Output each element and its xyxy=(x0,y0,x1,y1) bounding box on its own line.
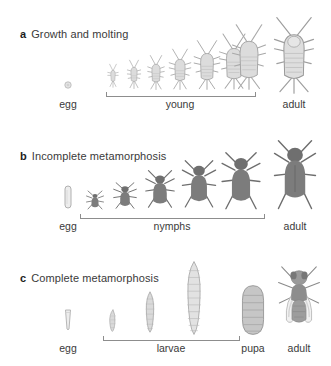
bracket-young xyxy=(106,92,256,97)
figure-adult-c xyxy=(277,262,321,336)
figure-adult-a xyxy=(271,16,317,94)
figure-larva-3 xyxy=(184,260,204,336)
label-egg-b: egg xyxy=(59,220,77,232)
figure-egg-b xyxy=(63,184,73,210)
panel-c-letter: c xyxy=(20,272,26,284)
panel-a-title: Growth and molting xyxy=(31,28,128,40)
bracket-nymphs xyxy=(80,214,265,219)
figure-young-2 xyxy=(125,58,144,89)
panel-incomplete-metamorphosis: bIncomplete metamorphosis xyxy=(0,122,331,244)
panel-a-header: aGrowth and molting xyxy=(20,28,128,40)
bracket-larvae xyxy=(103,336,240,341)
label-pupa: pupa xyxy=(241,342,264,354)
panel-b-header: bIncomplete metamorphosis xyxy=(20,150,166,162)
panel-c-title: Complete metamorphosis xyxy=(31,272,159,284)
label-young: young xyxy=(166,98,195,110)
figure-nymph-5 xyxy=(219,152,263,214)
figure-young-7 xyxy=(230,24,268,90)
panel-c-header: cComplete metamorphosis xyxy=(20,272,159,284)
label-adult-a: adult xyxy=(283,98,306,110)
figure-egg-c xyxy=(63,308,73,332)
figure-larva-1 xyxy=(109,308,118,333)
figure-young-1 xyxy=(105,62,121,88)
label-egg-a: egg xyxy=(59,98,77,110)
figure-pupa xyxy=(240,284,266,336)
label-adult-b: adult xyxy=(284,220,307,232)
figure-adult-b xyxy=(270,140,320,214)
figure-young-4 xyxy=(167,48,193,90)
panel-b-letter: b xyxy=(20,150,27,162)
label-nymphs: nymphs xyxy=(154,220,191,232)
panel-b-title: Incomplete metamorphosis xyxy=(32,150,166,162)
figure-nymph-3 xyxy=(144,170,176,212)
panel-complete-metamorphosis: cComplete metamorphosis xyxy=(0,244,331,366)
label-egg-c: egg xyxy=(59,342,77,354)
panel-a-letter: a xyxy=(20,28,26,40)
figure-egg-a xyxy=(63,80,73,90)
figure-nymph-2 xyxy=(113,182,138,212)
figure-young-3 xyxy=(145,54,167,90)
figure-nymph-4 xyxy=(180,160,218,212)
label-adult-c: adult xyxy=(288,342,311,354)
label-larvae: larvae xyxy=(157,342,186,354)
panel-growth-and-molting: aGrowth and molting xyxy=(0,0,331,122)
figure-nymph-1 xyxy=(85,190,105,212)
figure-larva-2 xyxy=(144,290,157,334)
